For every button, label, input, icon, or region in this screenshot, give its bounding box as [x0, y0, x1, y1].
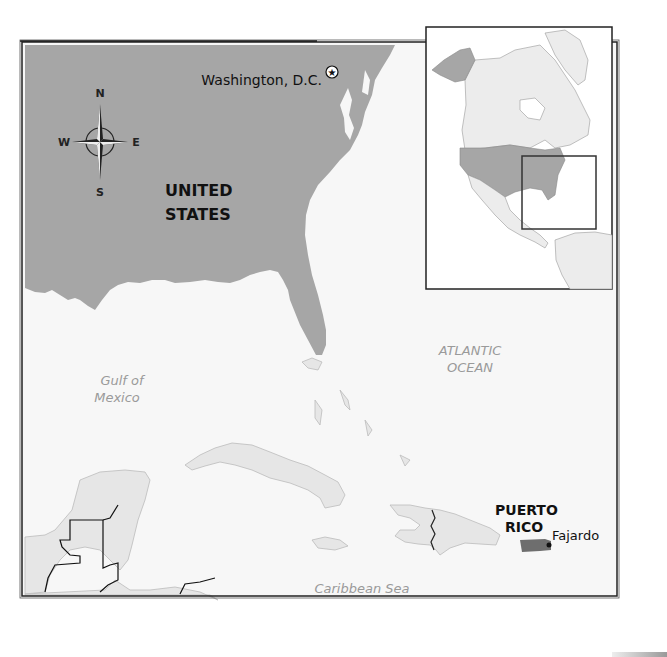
puerto-rico-label-line1: PUERTO [495, 502, 558, 518]
gulf-of-mexico-label-line2: Mexico [94, 390, 140, 405]
puerto-rico-label-line2: RICO [505, 519, 543, 535]
compass-west: W [58, 136, 70, 149]
compass-east: E [132, 136, 140, 149]
inset-map [426, 27, 612, 289]
atlantic-ocean-label-line1: ATLANTIC [438, 343, 503, 358]
united-states-label-line1: UNITED [165, 181, 232, 200]
caribbean-sea-label: Caribbean Sea [314, 581, 409, 596]
united-states-label-line2: STATES [165, 205, 231, 224]
compass-south: S [96, 186, 104, 199]
fajardo-label: Fajardo [552, 528, 599, 543]
fajardo-marker [547, 543, 552, 548]
compass-north: N [95, 87, 104, 100]
washington-dc-label: Washington, D.C. [201, 72, 322, 88]
bottom-shadow-bar [612, 652, 667, 657]
capital-star-glyph: ★ [328, 67, 337, 78]
map: Washington, D.C. ★ UNITED STATES PUERTO … [0, 0, 667, 657]
atlantic-ocean-label-line2: OCEAN [447, 360, 493, 375]
puerto-rico-land [520, 539, 551, 552]
gulf-of-mexico-label-line1: Gulf of [100, 373, 146, 388]
